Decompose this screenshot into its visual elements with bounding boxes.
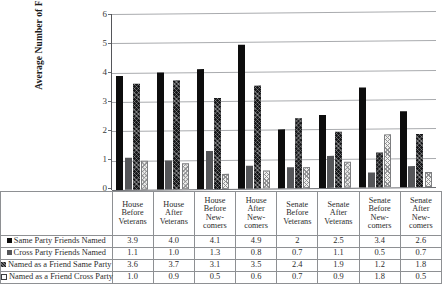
data-value-cell: 4.0 — [153, 236, 194, 248]
bar — [214, 98, 221, 189]
bar — [246, 165, 253, 189]
bar-groups — [112, 11, 436, 190]
y-tick-label-6: 6 — [103, 10, 108, 19]
bar — [238, 45, 245, 189]
data-value-cell: 0.7 — [400, 248, 441, 260]
data-value-cell: 1.2 — [359, 260, 400, 272]
bar-group — [153, 13, 194, 189]
bar — [222, 174, 229, 189]
category-header-cell: SenateAfterVeterans — [318, 192, 359, 236]
bar — [368, 173, 375, 188]
bar — [197, 69, 204, 189]
bar — [254, 86, 261, 189]
plot-area: 0123456 — [111, 14, 436, 190]
data-value-cell: 0.6 — [236, 272, 277, 284]
data-value-cell: 0.5 — [400, 272, 441, 284]
data-value-cell: 1.0 — [153, 248, 194, 260]
bar — [125, 158, 132, 190]
y-axis-title: Average Number of Friends — [29, 0, 49, 117]
legend-series-label: Cross Party Friends Named — [1, 248, 113, 260]
y-tick-mark-1 — [108, 159, 111, 160]
data-value-cell: 0.7 — [277, 272, 318, 284]
y-tick-label-3: 3 — [103, 97, 108, 106]
y-tick-mark-5 — [108, 43, 111, 44]
bar — [327, 156, 334, 188]
data-table: HouseBeforeVeteransHouseAfterVeteransHou… — [0, 191, 442, 284]
data-value-cell: 0.9 — [318, 272, 359, 284]
legend-swatch-icon — [1, 274, 7, 280]
category-header-cell: SenateBeforeNew-comers — [359, 192, 400, 236]
data-value-cell: 1.8 — [359, 272, 400, 284]
bar — [287, 168, 294, 189]
data-value-cell: 2.4 — [277, 260, 318, 272]
data-value-cell: 0.5 — [359, 248, 400, 260]
bar-group — [274, 12, 315, 188]
data-value-cell: 1.1 — [318, 248, 359, 260]
y-tick-label-5: 5 — [103, 39, 108, 48]
data-value-cell: 2.5 — [318, 236, 359, 248]
bar — [408, 167, 415, 188]
category-header-cell: HouseAfterVeterans — [153, 192, 194, 236]
data-value-cell: 1.8 — [400, 260, 441, 272]
bar-group — [112, 14, 153, 190]
y-tick-mark-3 — [108, 101, 111, 102]
legend-swatch-icon — [1, 262, 6, 267]
y-tick-label-4: 4 — [103, 68, 108, 77]
table-row: Named as a Friend Cross Party1.00.90.50.… — [1, 272, 442, 284]
bar — [400, 111, 407, 187]
bar — [335, 132, 342, 188]
data-value-cell: 3.7 — [153, 260, 194, 272]
data-value-cell: 3.6 — [112, 260, 153, 272]
legend-series-label: Named as a Friend Same Party — [1, 260, 113, 272]
y-tick-label-1: 1 — [103, 155, 108, 164]
data-value-cell: 3.1 — [194, 260, 235, 272]
bar-group — [355, 11, 396, 187]
category-header-cell: HouseAfterNew-comers — [236, 192, 277, 236]
table-row: Cross Party Friends Named1.11.01.30.80.7… — [1, 248, 442, 260]
data-value-cell: 0.7 — [277, 248, 318, 260]
y-tick-mark-0 — [108, 188, 111, 189]
data-value-cell: 3.5 — [236, 260, 277, 272]
y-tick-mark-4 — [108, 72, 111, 73]
category-header-cell: HouseBeforeNew-comers — [194, 192, 235, 236]
bar-chart-with-data-table: Average Number of Friends 0123456 HouseB… — [0, 0, 442, 296]
data-value-cell: 1.0 — [112, 272, 153, 284]
bar — [141, 160, 148, 189]
bar — [165, 160, 172, 189]
bar — [295, 118, 302, 188]
bar — [376, 152, 383, 187]
data-value-cell: 0.5 — [194, 272, 235, 284]
legend-series-label: Named as a Friend Cross Party — [1, 272, 113, 284]
data-value-cell: 3.4 — [359, 236, 400, 248]
data-value-cell: 0.9 — [153, 272, 194, 284]
data-value-cell: 0.8 — [236, 248, 277, 260]
data-value-cell: 2.6 — [400, 236, 441, 248]
bar-group — [234, 12, 275, 188]
table-corner-cell — [1, 192, 113, 236]
table-row: Same Party Friends Named3.94.04.14.922.5… — [1, 236, 442, 248]
bar-group — [193, 13, 234, 189]
data-value-cell: 4.1 — [194, 236, 235, 248]
bar-group — [315, 12, 356, 188]
data-value-cell: 2 — [277, 236, 318, 248]
data-table-container: HouseBeforeVeteransHouseAfterVeteransHou… — [0, 191, 442, 284]
bar — [133, 84, 140, 190]
table-row: Named as a Friend Same Party3.63.73.13.5… — [1, 260, 442, 272]
bar — [416, 134, 423, 187]
bar — [206, 151, 213, 189]
bar — [278, 130, 285, 189]
bar-group — [396, 11, 437, 187]
bar — [182, 163, 189, 189]
y-tick-mark-2 — [108, 130, 111, 131]
y-tick-mark-6 — [108, 14, 111, 15]
bar — [263, 171, 270, 189]
legend-swatch-icon — [7, 238, 12, 243]
bar — [319, 115, 326, 188]
bar — [303, 168, 310, 189]
data-value-cell: 3.9 — [112, 236, 153, 248]
legend-swatch-icon — [7, 250, 12, 255]
data-value-cell: 1.1 — [112, 248, 153, 260]
y-tick-label-2: 2 — [103, 126, 108, 135]
data-value-cell: 1.9 — [318, 260, 359, 272]
data-value-cell: 1.3 — [194, 248, 235, 260]
